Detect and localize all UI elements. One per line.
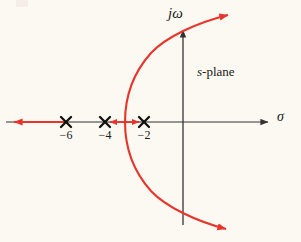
pole-label-minus-2: −2	[129, 128, 159, 143]
pole-label-minus-4: −4	[90, 128, 120, 143]
s-plane-annotation: s-plane	[197, 65, 235, 78]
s-plane-suffix: -plane	[202, 64, 234, 79]
real-axis-label: σ	[277, 110, 284, 124]
root-locus-figure: jω σ s-plane −6 −4 −2	[0, 0, 301, 242]
root-locus-plot	[0, 0, 301, 242]
imaginary-axis-label: jω	[168, 6, 183, 21]
pole-label-minus-6: −6	[51, 128, 81, 143]
